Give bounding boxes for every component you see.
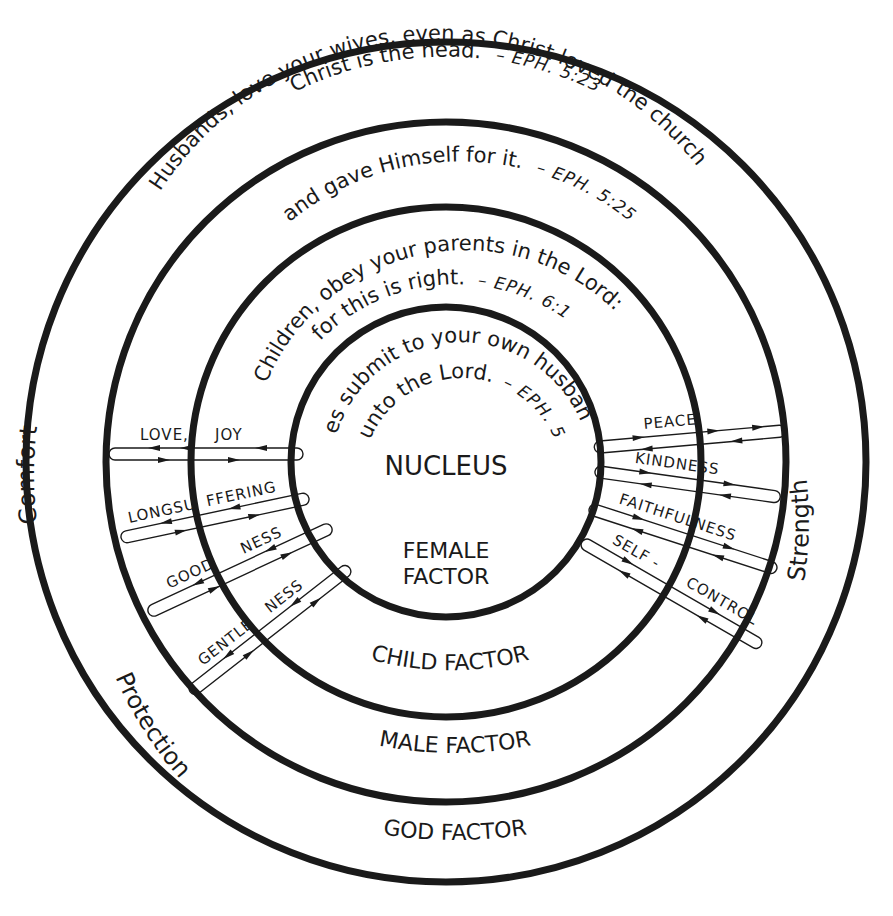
svg-text:LOVE,: LOVE,	[140, 426, 189, 444]
fruit-tube-self-control: SELF - CONTROL	[577, 518, 775, 654]
svg-text:PEACE: PEACE	[643, 410, 698, 433]
svg-text:GENTLE: GENTLE	[194, 615, 257, 669]
god-factor-label: GOD FACTOR	[382, 815, 528, 845]
family-factor-diagram: Christ is the head. – EPH. 5:23 Husbands…	[0, 0, 893, 916]
svg-text:CONTROL: CONTROL	[683, 573, 761, 629]
fruit-tube-faithfulness: FAITHFULNESS	[587, 482, 786, 578]
strength-label: Strength	[782, 478, 815, 583]
female-factor-label-line1: FEMALE	[403, 538, 490, 563]
female-factor-label-line2: FACTOR	[403, 564, 490, 589]
svg-text:NESS: NESS	[238, 523, 285, 558]
male-factor-label: MALE FACTOR	[378, 726, 533, 758]
fruit-tube-love-joy: LOVE, JOY	[109, 426, 303, 463]
svg-text:FFERING: FFERING	[204, 478, 278, 510]
nucleus-label: NUCLEUS	[384, 451, 507, 481]
comfort-label: Comfort	[12, 424, 43, 526]
svg-text:JOY: JOY	[214, 426, 243, 444]
child-factor-label: CHILD FACTOR	[369, 640, 531, 675]
svg-text:LONGSU: LONGSU	[126, 495, 197, 527]
fruit-tube-peace: PEACE	[592, 403, 786, 457]
svg-text:KINDNESS: KINDNESS	[634, 449, 720, 479]
